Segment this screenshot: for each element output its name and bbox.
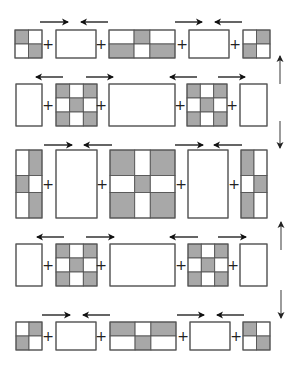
plus-sign: + xyxy=(175,176,187,192)
matrix-block xyxy=(243,322,270,350)
blank-cell xyxy=(29,336,42,350)
blank-cell xyxy=(150,30,175,44)
shaded-cell xyxy=(110,150,135,176)
shaded-cell xyxy=(151,322,176,336)
shaded-cell xyxy=(215,244,228,258)
blank-cell xyxy=(16,193,29,219)
shaded-cell xyxy=(243,322,257,336)
blank-cell xyxy=(189,30,229,58)
block-matrix-diagram: ++++++++++++++++++++ xyxy=(0,0,298,371)
shaded-cell xyxy=(70,258,84,272)
shaded-cell xyxy=(83,84,97,98)
blank-cell xyxy=(56,98,70,112)
blank-cell xyxy=(241,176,254,193)
shaded-cell xyxy=(56,112,70,126)
blank-cell xyxy=(16,244,42,286)
shaded-cell xyxy=(110,322,135,336)
shaded-cell xyxy=(215,272,228,286)
matrix-block xyxy=(243,30,270,58)
shaded-cell xyxy=(187,112,200,126)
shaded-cell xyxy=(187,84,200,98)
shaded-cell xyxy=(15,30,29,44)
shaded-cell xyxy=(83,244,97,258)
plus-sign: + xyxy=(175,257,187,273)
blank-cell xyxy=(135,150,151,176)
shaded-cell xyxy=(200,98,213,112)
shaded-cell xyxy=(109,44,134,58)
matrix-block xyxy=(109,30,175,58)
shaded-cell xyxy=(257,30,271,44)
shaded-cell xyxy=(214,84,227,98)
plus-sign: + xyxy=(95,328,107,344)
plus-sign: + xyxy=(174,97,186,113)
plus-sign: + xyxy=(229,36,241,52)
matrix-block xyxy=(241,150,267,218)
blank-cell xyxy=(56,322,96,350)
blank-cell xyxy=(110,336,135,350)
blank-cell xyxy=(109,84,175,126)
matrix-block xyxy=(188,244,228,286)
blank-cell xyxy=(70,244,84,258)
shaded-cell xyxy=(83,272,97,286)
diagram-canvas: ++++++++++++++++++++ xyxy=(0,0,298,371)
shaded-cell xyxy=(29,322,42,336)
shaded-cell xyxy=(150,150,175,176)
blank-cell xyxy=(56,30,96,58)
blank-cell xyxy=(134,44,150,58)
shaded-cell xyxy=(241,150,254,176)
blank-cell xyxy=(70,112,84,126)
shaded-cell xyxy=(254,176,267,193)
blank-cell xyxy=(16,150,29,176)
matrix-block xyxy=(56,322,96,350)
blank-cell xyxy=(243,336,257,350)
plus-sign: + xyxy=(95,257,107,273)
matrix-block xyxy=(16,244,42,286)
blank-cell xyxy=(188,150,228,218)
shaded-cell xyxy=(29,150,42,176)
shaded-cell xyxy=(83,112,97,126)
matrix-block xyxy=(56,150,97,218)
blank-cell xyxy=(214,98,227,112)
plus-sign: + xyxy=(96,176,108,192)
shaded-cell xyxy=(257,336,271,350)
blank-cell xyxy=(240,244,267,286)
shaded-cell xyxy=(135,336,151,350)
matrix-block xyxy=(16,150,42,218)
shaded-cell xyxy=(29,193,42,219)
blank-cell xyxy=(29,30,43,44)
shaded-cell xyxy=(56,84,70,98)
shaded-cell xyxy=(29,44,43,58)
matrix-block xyxy=(190,322,230,350)
blank-cell xyxy=(257,44,271,58)
plus-sign: + xyxy=(95,36,107,52)
blank-cell xyxy=(188,258,201,272)
plus-sign: + xyxy=(42,257,54,273)
matrix-row-3: ++++ xyxy=(16,145,267,218)
blank-cell xyxy=(135,193,151,219)
shaded-cell xyxy=(135,176,151,193)
shaded-cell xyxy=(241,193,254,219)
blank-cell xyxy=(151,336,176,350)
blank-cell xyxy=(110,176,135,193)
blank-cell xyxy=(70,84,84,98)
plus-sign: + xyxy=(176,36,188,52)
blank-cell xyxy=(240,84,267,126)
vertical-arrows-layer xyxy=(280,56,281,318)
blank-cell xyxy=(16,322,29,336)
plus-sign: + xyxy=(177,328,189,344)
matrix-block xyxy=(56,84,97,126)
blank-cell xyxy=(109,30,134,44)
shaded-cell xyxy=(201,258,214,272)
plus-sign: + xyxy=(230,328,242,344)
matrix-block xyxy=(56,30,96,58)
plus-sign: + xyxy=(227,257,239,273)
blank-cell xyxy=(70,272,84,286)
matrix-block xyxy=(16,322,42,350)
matrix-row-4: ++++ xyxy=(16,237,267,286)
blank-cell xyxy=(257,322,271,336)
blank-cell xyxy=(254,150,267,176)
plus-sign: + xyxy=(42,97,54,113)
shaded-cell xyxy=(188,244,201,258)
matrix-block xyxy=(109,84,175,126)
blank-cell xyxy=(15,44,29,58)
